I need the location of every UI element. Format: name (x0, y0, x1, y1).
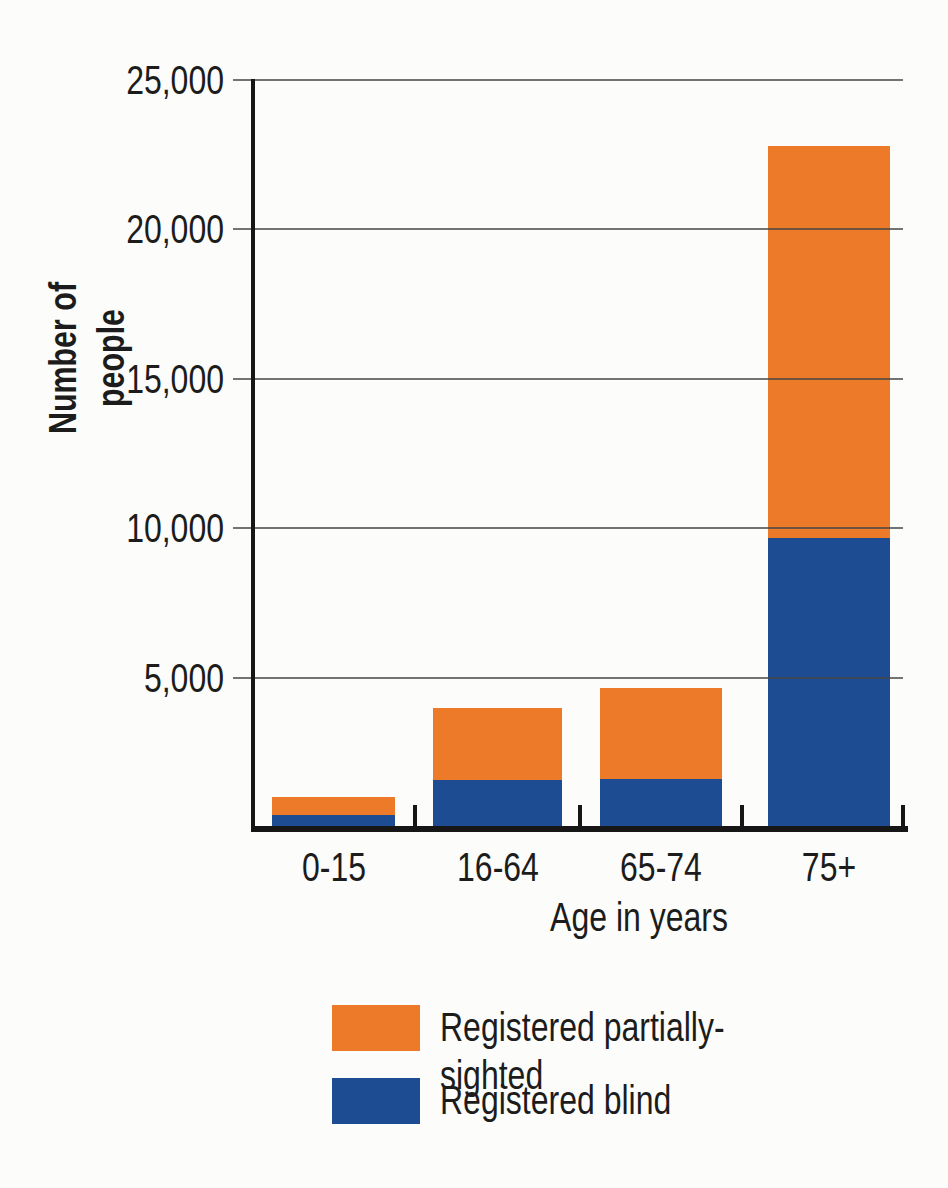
legend-swatch-partially-sighted-icon (332, 1005, 420, 1051)
gridline-15000 (233, 378, 903, 380)
x-category-label-65-74: 65-74 (573, 842, 749, 892)
bar-75+-registered-blind (768, 538, 890, 828)
y-tick-label-15000: 15,000 (77, 355, 224, 403)
x-axis-line (251, 826, 908, 832)
x-category-label-16-64: 16-64 (410, 842, 586, 892)
y-tick-label-10000: 10,000 (77, 504, 224, 552)
x-axis-separator-tick-0 (413, 805, 417, 828)
x-axis-separator-tick-1 (578, 805, 582, 828)
y-tick-label-20000: 20,000 (77, 205, 224, 253)
x-category-label-0-15: 0-15 (246, 842, 422, 892)
y-axis-line (251, 79, 255, 832)
legend-swatch-blind-icon (332, 1078, 420, 1124)
x-axis-separator-tick-3 (901, 805, 905, 828)
gridline-25000 (233, 79, 903, 81)
bar-65-74-registered-blind (600, 779, 722, 828)
legend-label-blind: Registered blind (440, 1076, 824, 1124)
gridline-5000 (233, 677, 903, 679)
bar-16-64-registered-blind (433, 780, 562, 828)
legend-label-partially-sighted: Registered partially-sighted (440, 1003, 824, 1051)
x-category-label-75+: 75+ (741, 842, 917, 892)
chart-page: Number of people 5,00010,00015,00020,000… (0, 0, 948, 1188)
y-tick-label-5000: 5,000 (77, 654, 224, 702)
bar-65-74-registered-partially-sighted (600, 688, 722, 779)
x-axis-separator-tick-2 (740, 805, 744, 828)
bar-75+-registered-partially-sighted (768, 146, 890, 538)
bar-16-64-registered-partially-sighted (433, 708, 562, 780)
x-axis-title: Age in years (511, 893, 767, 941)
gridline-20000 (233, 228, 903, 230)
bar-0-15-registered-partially-sighted (272, 797, 395, 815)
y-tick-label-25000: 25,000 (77, 56, 224, 104)
gridline-10000 (233, 527, 903, 529)
